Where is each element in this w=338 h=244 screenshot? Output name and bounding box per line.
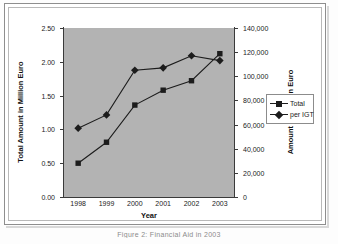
figure-caption: Figure 2: Financial Aid in 2003 (0, 231, 338, 238)
line-chart: 0.000.501.001.502.002.50 020,00040,00060… (8, 7, 322, 221)
data-point-marker (159, 64, 167, 72)
series-line-total (78, 54, 220, 164)
data-point-marker (75, 161, 80, 166)
figure-shadow-right (327, 6, 329, 227)
data-point-marker (217, 51, 222, 56)
figure-shadow-bottom (6, 226, 329, 228)
data-point-marker (216, 57, 224, 65)
chart-legend: Total per IGT (266, 94, 314, 124)
legend-item-per-igt[interactable]: per IGT (270, 109, 310, 120)
legend-item-total[interactable]: Total (270, 98, 310, 109)
legend-marker-diamond-icon (270, 110, 288, 119)
data-point-marker (188, 52, 196, 60)
data-point-marker (131, 66, 139, 74)
data-point-marker (160, 87, 165, 92)
legend-label-per-igt: per IGT (288, 111, 314, 118)
data-point-marker (189, 78, 194, 83)
legend-label-total: Total (288, 100, 305, 107)
series-line-per-igt (78, 56, 220, 128)
x-axis-title: Year (64, 211, 234, 220)
data-point-marker (132, 102, 137, 107)
left-axis-title: Total Amount in Million Euro (16, 61, 25, 162)
data-point-marker (74, 124, 82, 132)
data-point-marker (104, 140, 109, 145)
legend-marker-square-icon (270, 99, 288, 108)
figure-container: 0.000.501.001.502.002.50 020,00040,00060… (0, 0, 338, 244)
data-point-marker (103, 111, 111, 119)
